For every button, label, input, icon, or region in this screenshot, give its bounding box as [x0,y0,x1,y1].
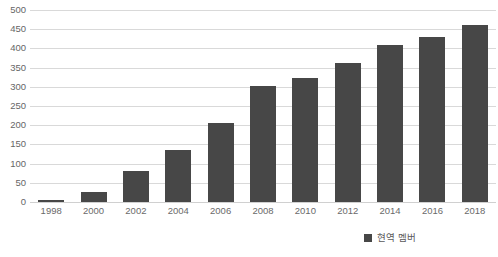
x-axis-tick-label: 2014 [369,206,411,216]
bar-rect [335,63,361,202]
x-axis-tick-label: 2008 [242,206,284,216]
y-axis-tick-label: 200 [0,120,26,130]
bar-rect [250,86,276,202]
bar-rect [377,45,403,202]
y-axis-tick-label: 150 [0,139,26,149]
y-axis-tick-label: 250 [0,101,26,111]
x-axis-tick-label: 2002 [115,206,157,216]
legend-square-marker-icon [364,234,372,242]
bar-rect [292,78,318,202]
y-axis-tick-label: 0 [0,197,26,207]
bar-rect [165,150,191,202]
y-axis-tick-label: 400 [0,43,26,53]
x-axis-tick-label: 2000 [73,206,115,216]
bar-rect [81,192,107,202]
y-axis-tick-label: 300 [0,82,26,92]
bar-chart: 050100150200250300350400450500 199820002… [0,0,498,257]
y-axis-tick-label: 350 [0,63,26,73]
x-axis-tick-label: 1998 [30,206,72,216]
x-axis-tick-label: 2004 [157,206,199,216]
x-axis-tick-label: 2010 [284,206,326,216]
x-axis-tick-label: 2018 [454,206,496,216]
bars-layer [30,0,496,203]
x-axis-tick-label: 2016 [411,206,453,216]
bar-rect [38,200,64,202]
y-axis-tick-label: 50 [0,178,26,188]
legend-label: 현역 멤버 [377,233,416,243]
bar-rect [123,171,149,202]
x-axis-tick-label: 2012 [327,206,369,216]
y-axis-tick-label: 500 [0,5,26,15]
y-axis-tick-label: 100 [0,159,26,169]
bar-rect [462,25,488,202]
bar-rect [419,37,445,202]
chart-legend: 현역 멤버 [0,233,490,243]
x-axis-tick-label: 2006 [200,206,242,216]
bar-rect [208,123,234,202]
y-axis-tick-label: 450 [0,24,26,34]
